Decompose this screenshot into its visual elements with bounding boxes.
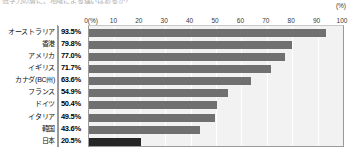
value-label: 50.4% — [58, 98, 88, 110]
bar — [89, 114, 215, 122]
value-label: 71.7% — [58, 62, 88, 74]
category-label: フランス — [0, 88, 58, 96]
label-row: ドイツ50.4% — [0, 98, 88, 110]
label-row: イギリス71.7% — [0, 62, 88, 74]
figure-caption: 低学力の層に、地域による違いはあるか? — [2, 0, 128, 5]
bar — [89, 138, 141, 146]
bar-row — [89, 136, 343, 147]
bar — [89, 89, 228, 97]
category-label: オーストラリア — [0, 28, 58, 36]
label-row: カナダ(BC州)63.6% — [0, 74, 88, 86]
bar — [89, 101, 217, 109]
bar — [89, 65, 271, 73]
x-tick-40: 40 — [186, 16, 193, 25]
value-label: 49.5% — [58, 111, 88, 123]
label-row: オーストラリア93.5% — [0, 26, 88, 38]
x-tick-20: 20 — [135, 16, 142, 25]
x-tick-30: 30 — [161, 16, 168, 25]
value-label: 63.6% — [58, 74, 88, 86]
bar-row — [89, 27, 343, 39]
plot-area — [88, 25, 344, 147]
bar — [89, 126, 200, 134]
category-label: カナダ(BC州) — [0, 76, 58, 84]
value-label: 20.5% — [58, 135, 88, 147]
bar-row — [89, 39, 343, 51]
axis-unit-label: (%) — [336, 2, 346, 9]
value-label: 54.9% — [58, 86, 88, 98]
bar — [89, 29, 326, 37]
bar — [89, 53, 285, 61]
value-label: 93.5% — [58, 26, 88, 38]
x-tick-50: 50 — [211, 16, 218, 25]
x-tick-100: 100 — [337, 16, 348, 25]
category-label: 韓国 — [0, 125, 58, 133]
category-label: 香港 — [0, 40, 58, 48]
label-row: 日本20.5% — [0, 135, 88, 147]
category-label: イギリス — [0, 64, 58, 72]
category-label: ドイツ — [0, 100, 58, 108]
bar — [89, 77, 251, 85]
bar-row — [89, 124, 343, 136]
bar-series — [89, 26, 343, 146]
value-label: 43.6% — [58, 123, 88, 135]
bar-row — [89, 87, 343, 99]
x-tick-60: 60 — [237, 16, 244, 25]
category-label: アメリカ — [0, 52, 58, 60]
x-tick-80: 80 — [288, 16, 295, 25]
bar-row — [89, 51, 343, 63]
bar-row — [89, 112, 343, 124]
bar — [89, 41, 292, 49]
label-row: イタリア49.5% — [0, 111, 88, 123]
x-tick-90: 90 — [313, 16, 320, 25]
category-label: 日本 — [0, 137, 58, 145]
bar-row — [89, 99, 343, 111]
bar-row — [89, 63, 343, 75]
label-row: 香港79.8% — [0, 38, 88, 50]
label-row: フランス54.9% — [0, 86, 88, 98]
bar-row — [89, 75, 343, 87]
category-label-column: オーストラリア93.5%香港79.8%アメリカ77.0%イギリス71.7%カナダ… — [0, 25, 88, 147]
chart-figure: 低学力の層に、地域による違いはあるか? (%) 0(%)102030405060… — [0, 0, 350, 151]
x-tick-10: 10 — [110, 16, 117, 25]
value-label: 77.0% — [58, 50, 88, 62]
x-tick-0: 0(%) — [84, 16, 98, 25]
value-label: 79.8% — [58, 38, 88, 50]
label-row: 韓国43.6% — [0, 123, 88, 135]
x-tick-70: 70 — [262, 16, 269, 25]
label-row: アメリカ77.0% — [0, 50, 88, 62]
category-label: イタリア — [0, 113, 58, 121]
